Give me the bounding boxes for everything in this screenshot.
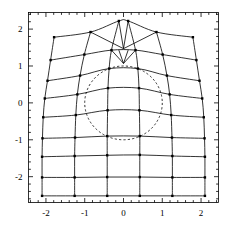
mesh-node-marker bbox=[198, 80, 200, 82]
axis-ticks bbox=[29, 13, 219, 203]
mesh-node-marker bbox=[46, 80, 48, 82]
x-tick-label: -2 bbox=[42, 208, 50, 218]
x-tick-label: 2 bbox=[199, 208, 204, 218]
mesh-node-marker bbox=[106, 154, 108, 156]
mesh-node-marker bbox=[138, 87, 140, 89]
mesh-node-marker bbox=[44, 97, 46, 99]
x-tick-label: 1 bbox=[160, 208, 165, 218]
y-tick-label: 2 bbox=[18, 24, 23, 34]
mesh-node-marker bbox=[89, 31, 91, 33]
mesh-apex-ray bbox=[91, 32, 124, 49]
mesh-node-marker bbox=[108, 67, 110, 69]
mesh-node-marker bbox=[73, 176, 75, 178]
plot-frame bbox=[29, 13, 219, 203]
y-tick-labels: -2-1012 bbox=[15, 24, 23, 182]
mesh-line-circumferential bbox=[51, 50, 197, 61]
mesh-node-marker bbox=[73, 155, 75, 157]
mesh-node-marker bbox=[106, 135, 108, 137]
mesh-apex-fan bbox=[91, 21, 157, 63]
y-tick-label: 1 bbox=[18, 61, 23, 71]
x-tick-labels: -2-1012 bbox=[42, 208, 203, 218]
mesh-line-radial bbox=[107, 21, 119, 196]
mesh-node-marker bbox=[107, 87, 109, 89]
mesh-node-marker bbox=[155, 31, 157, 33]
mesh-apex-ray bbox=[119, 21, 124, 49]
mesh-node-marker bbox=[137, 67, 139, 69]
plot-canvas: -2-1012-2-1012 bbox=[0, 0, 234, 231]
mesh-apex-ray-inner bbox=[111, 50, 123, 63]
mesh-node-marker bbox=[41, 195, 43, 197]
mesh-apex-ray bbox=[124, 32, 157, 49]
mesh-line-radial bbox=[128, 21, 140, 196]
mesh-node-marker bbox=[171, 136, 173, 138]
mesh-node-marker bbox=[138, 109, 140, 111]
mesh-line-circumferential bbox=[54, 20, 193, 38]
mesh-node-marker bbox=[166, 74, 168, 76]
x-tick-label: 0 bbox=[121, 208, 126, 218]
mesh-node-marker bbox=[41, 176, 43, 178]
x-tick-label: -1 bbox=[81, 208, 89, 218]
mesh-node-marker bbox=[195, 59, 197, 61]
y-tick-label: -2 bbox=[15, 172, 23, 182]
mesh-node-marker bbox=[204, 156, 206, 158]
mesh-node-marker bbox=[171, 195, 173, 197]
mesh-node-marker bbox=[75, 114, 77, 116]
mesh-node-marker bbox=[53, 36, 55, 38]
mesh-circumferential-lines bbox=[42, 20, 205, 196]
mesh-node-marker bbox=[134, 49, 136, 51]
mesh-node-marker bbox=[161, 53, 163, 55]
mesh-node-marker bbox=[74, 136, 76, 138]
mesh-node-marker bbox=[203, 116, 205, 118]
mesh-line-circumferential bbox=[42, 136, 204, 138]
mesh-node-marker bbox=[204, 176, 206, 178]
mesh-node-marker bbox=[83, 53, 85, 55]
dashed-unit-circle bbox=[85, 66, 163, 140]
mesh-line-circumferential bbox=[42, 155, 205, 157]
mesh-node-marker bbox=[168, 93, 170, 95]
y-tick-label: -1 bbox=[15, 135, 23, 145]
mesh-apex-ray-inner bbox=[124, 50, 136, 63]
mesh-node-marker bbox=[139, 176, 141, 178]
mesh-node-marker bbox=[170, 114, 172, 116]
plot-figure: -2-1012-2-1012 bbox=[0, 0, 234, 231]
mesh-node-marker bbox=[41, 137, 43, 139]
mesh-apex-ray bbox=[124, 21, 129, 49]
mesh-node-marker bbox=[73, 195, 75, 197]
mesh-node-marker bbox=[106, 176, 108, 178]
mesh-node-marker bbox=[204, 195, 206, 197]
y-tick-label: 0 bbox=[18, 98, 23, 108]
mesh-node-marker bbox=[139, 195, 141, 197]
mesh-node-marker bbox=[171, 155, 173, 157]
mesh-line-circumferential bbox=[43, 110, 204, 118]
mesh-node-marker bbox=[171, 176, 173, 178]
mesh-node-marker bbox=[42, 116, 44, 118]
mesh-node-marker bbox=[192, 36, 194, 38]
mesh-line-circumferential bbox=[45, 87, 202, 98]
mesh-node-marker bbox=[49, 59, 51, 61]
mesh-node-marker bbox=[106, 109, 108, 111]
mesh-node-marker bbox=[41, 156, 43, 158]
mesh-node-marker bbox=[118, 20, 120, 22]
mesh-node-marker bbox=[139, 135, 141, 137]
mesh-line-circumferential bbox=[48, 68, 200, 81]
mesh-node-marker bbox=[139, 154, 141, 156]
mesh-node-marker bbox=[201, 97, 203, 99]
mesh-node-marker bbox=[127, 20, 129, 22]
mesh-node-marker bbox=[106, 195, 108, 197]
mesh-node-marker bbox=[110, 49, 112, 51]
mesh-node-marker bbox=[79, 74, 81, 76]
mesh-node-marker bbox=[76, 93, 78, 95]
mesh-node-marker bbox=[203, 137, 205, 139]
